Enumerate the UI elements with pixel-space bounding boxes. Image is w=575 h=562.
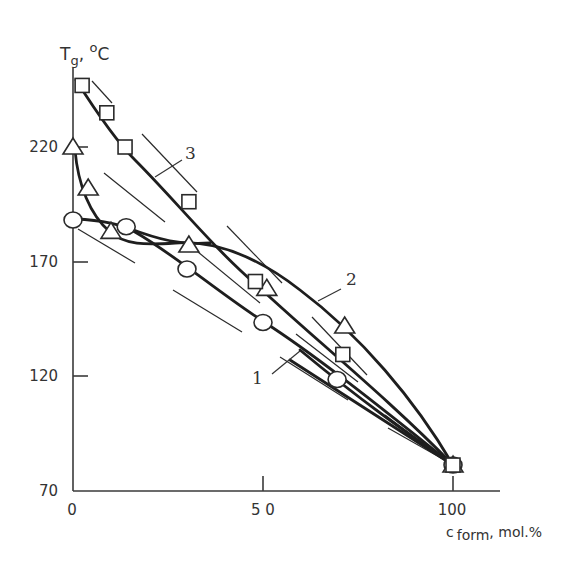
x-tick-label: 5 0 [251, 501, 275, 519]
data-markers [63, 78, 463, 473]
data-point-circle [178, 261, 196, 277]
y-tick-label: 120 [29, 367, 58, 385]
plot-area: 70 120 170 220 0 5 0 100 Tg, oC cform, m… [29, 40, 542, 543]
data-point-square [336, 347, 350, 361]
x-axis-title: cform, mol.% [446, 524, 542, 543]
curve-3 [76, 80, 453, 465]
data-point-square [75, 78, 89, 92]
curve-label-3: 3 [185, 143, 196, 163]
data-point-square [118, 140, 132, 154]
x-tick-label: 0 [67, 501, 77, 519]
data-point-circle [254, 315, 272, 331]
chart: 70 120 170 220 0 5 0 100 Tg, oC cform, m… [0, 0, 575, 562]
y-tick-label: 70 [39, 482, 58, 500]
curve-label-1: 1 [252, 368, 263, 388]
data-point-square [182, 195, 196, 209]
data-point-circle [328, 372, 346, 388]
y-axis-title: Tg, oC [59, 40, 109, 68]
data-point-square [248, 275, 262, 289]
y-tick-label: 170 [29, 253, 58, 271]
x-tick-label: 100 [438, 501, 467, 519]
curve-2 [75, 150, 453, 465]
svg-text:Tg, oC: Tg, oC [59, 40, 109, 68]
curve-label-2: 2 [346, 269, 357, 289]
data-point-square [100, 106, 114, 120]
data-point-circle [64, 212, 82, 228]
svg-text:cform, mol.%: cform, mol.% [446, 524, 542, 543]
y-tick-label: 220 [29, 138, 58, 156]
data-point-triangle [335, 317, 355, 333]
curves [75, 80, 453, 465]
data-point-triangle [63, 138, 83, 154]
data-point-circle [117, 219, 135, 235]
data-point-square [446, 458, 460, 472]
